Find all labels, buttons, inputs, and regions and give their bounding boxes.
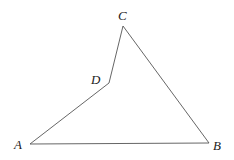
vertex-labels: A B C D [13, 8, 221, 153]
edge-cd [109, 26, 123, 83]
label-a: A [13, 137, 22, 152]
edge-ab [30, 143, 209, 144]
label-c: C [118, 8, 127, 23]
label-b: B [213, 138, 221, 153]
diagram-canvas: A B C D [0, 0, 234, 160]
edges [30, 26, 209, 144]
label-d: D [90, 72, 101, 87]
edge-da [30, 83, 109, 144]
edge-bc [123, 26, 209, 143]
